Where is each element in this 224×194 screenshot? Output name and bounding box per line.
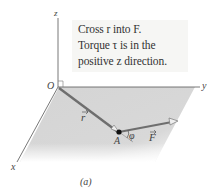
y-axis-label: y (202, 80, 206, 91)
z-axis-label: z (54, 8, 58, 18)
figure-caption: (a) (80, 176, 92, 187)
annotation-line-2: Torque τ is in the (78, 39, 155, 51)
right-angle-marker (58, 81, 63, 87)
annotation-line-1: Cross r into F. (78, 23, 141, 35)
x-axis-label: x (11, 161, 15, 172)
r-vector-label: r (81, 111, 85, 123)
point-A-label: A (114, 135, 120, 146)
point-A (116, 129, 121, 134)
F-vector-label: F (149, 131, 156, 143)
phi-angle-label: φ (129, 130, 135, 141)
annotation-line-3: positive z direction. (78, 55, 167, 67)
annotation-box: Cross r into F. Torque τ is in the posit… (72, 20, 188, 72)
origin-label: O (47, 80, 54, 91)
